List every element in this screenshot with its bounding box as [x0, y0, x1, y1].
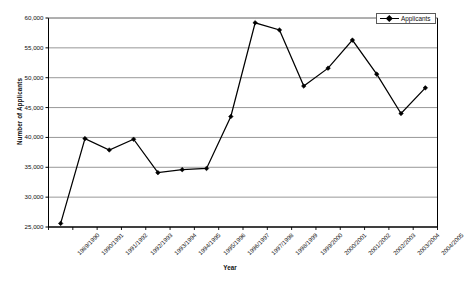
data-point-marker — [58, 221, 63, 226]
axis-frame — [49, 18, 438, 227]
legend-marker-icon — [380, 15, 399, 22]
data-point-marker — [253, 20, 258, 25]
legend-label-applicants: Applicants — [401, 15, 431, 23]
gridlines — [49, 18, 438, 227]
data-series-layer — [58, 20, 427, 225]
data-point-marker — [180, 167, 185, 172]
series-line-applicants — [61, 23, 426, 224]
data-point-marker — [229, 114, 234, 119]
data-point-marker — [107, 148, 112, 153]
data-point-marker — [277, 28, 282, 33]
chart-legend: Applicants — [376, 13, 436, 24]
